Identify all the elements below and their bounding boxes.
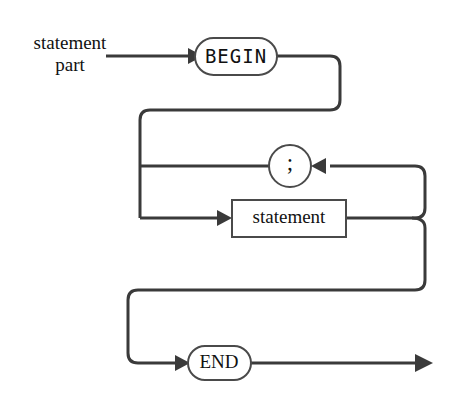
- statement-arrow-icon: [217, 210, 232, 226]
- exit-arrow-icon: [415, 354, 433, 372]
- semicolon-arrow-icon: [311, 158, 326, 174]
- node-end-label: END: [199, 351, 238, 372]
- rail-begin-to-loop: [140, 56, 340, 218]
- node-semicolon-label: ;: [287, 150, 293, 175]
- syntax-diagram: statement part BEGIN ; statement: [0, 0, 450, 405]
- node-statement-label: statement: [253, 206, 327, 227]
- rail-statement-down: [128, 218, 425, 363]
- node-begin-label: BEGIN: [205, 45, 267, 67]
